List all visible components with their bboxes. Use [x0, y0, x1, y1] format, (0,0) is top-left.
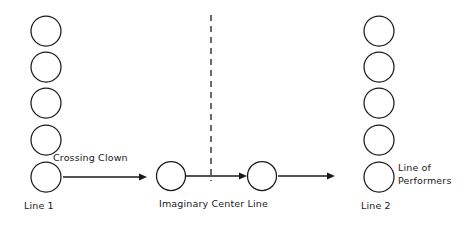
- stage-blocking-diagram: Crossing Clown Line 1 Imaginary Center L…: [0, 0, 472, 226]
- diagram-canvas: [0, 0, 472, 226]
- performer-circle: [31, 125, 61, 155]
- left-performer-line: [31, 16, 61, 192]
- performer-circle: [31, 52, 61, 82]
- performer-circle: [364, 52, 394, 82]
- label-line-1: Line 1: [24, 200, 54, 213]
- performer-circle: [364, 125, 394, 155]
- label-crossing-clown: Crossing Clown: [53, 152, 128, 165]
- performer-circle: [31, 88, 61, 118]
- performer-circle: [364, 88, 394, 118]
- crossing-clown-circle-mid-right: [248, 162, 277, 191]
- label-imaginary-center-line: Imaginary Center Line: [159, 198, 268, 211]
- crossing-clown-circle-mid-left: [157, 162, 186, 191]
- label-line-2: Line 2: [361, 200, 391, 213]
- performer-circle: [31, 16, 61, 46]
- label-line-of-performers: Line of Performers: [398, 162, 452, 187]
- performer-circle: [364, 162, 394, 192]
- performer-circle: [364, 16, 394, 46]
- arrow-line1-to-center: [63, 174, 147, 181]
- arrow-center-to-line2: [278, 173, 335, 180]
- right-performer-line: [364, 16, 394, 192]
- performer-circle-crossing-clown-start: [31, 162, 61, 192]
- arrow-center-short: [186, 173, 247, 180]
